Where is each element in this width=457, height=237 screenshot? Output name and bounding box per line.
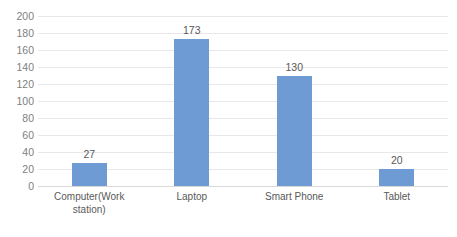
x-axis-category-label: Laptop [140,190,244,203]
x-axis: Computer(Workstation)LaptopSmart PhoneTa… [38,190,448,234]
y-axis-tick-label: 60 [0,130,34,140]
y-axis-tick-label: 180 [0,28,34,38]
axis-baseline [38,186,448,187]
gridline [38,50,448,51]
category-label-line: Computer(Work [37,190,141,203]
y-axis-tick-label: 0 [0,181,34,191]
y-axis-tick-label: 40 [0,147,34,157]
x-axis-category-label: Computer(Workstation) [37,190,141,216]
gridline [38,135,448,136]
bar [379,169,414,186]
bar [72,163,107,186]
y-axis-tick-label: 160 [0,45,34,55]
category-label-line: Tablet [345,190,449,203]
y-axis-tick-label: 20 [0,164,34,174]
bar-data-label: 27 [49,148,129,160]
gridline [38,67,448,68]
bar-data-label: 20 [357,154,437,166]
plot-area: 2717313020 [38,16,448,186]
bar [174,39,209,186]
gridline [38,16,448,17]
y-axis-tick-label: 100 [0,96,34,106]
category-label-line: Laptop [140,190,244,203]
gridline [38,33,448,34]
y-axis-tick-label: 140 [0,62,34,72]
gridline [38,118,448,119]
bar-data-label: 173 [152,24,232,36]
bar-data-label: 130 [254,61,334,73]
y-axis-tick-label: 120 [0,79,34,89]
category-label-line: station) [37,203,141,216]
y-axis-tick-label: 200 [0,11,34,21]
gridline [38,101,448,102]
y-axis-tick-label: 80 [0,113,34,123]
category-label-line: Smart Phone [242,190,346,203]
x-axis-category-label: Tablet [345,190,449,203]
bar [277,76,312,187]
y-axis: 200180160140120100806040200 [0,16,34,186]
bar-chart: 200180160140120100806040200 2717313020 C… [0,0,457,237]
gridline [38,84,448,85]
x-axis-category-label: Smart Phone [242,190,346,203]
